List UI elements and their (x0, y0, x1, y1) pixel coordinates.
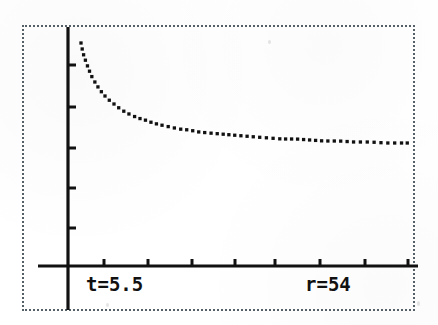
curve-dot (81, 47, 84, 50)
curve-dot (88, 70, 91, 73)
curve-dot (93, 80, 96, 83)
scan-speck (417, 301, 420, 306)
calculator-plot-screenshot: t=5.5 r=54 (0, 0, 438, 325)
curve-dot (100, 90, 103, 93)
curve-dot (372, 141, 375, 144)
curve-dot (112, 102, 115, 105)
curve-dot (245, 135, 248, 138)
curve-dot (320, 139, 323, 142)
curve-dot (117, 106, 120, 109)
curve-dot (379, 141, 382, 144)
curve-dot (345, 140, 348, 143)
curve-dot (359, 140, 362, 143)
curve-dot (144, 119, 147, 122)
curve-dot (386, 141, 389, 144)
curve-dot (406, 141, 409, 144)
curve-dot (209, 132, 212, 135)
curve-dot (127, 112, 130, 115)
curve-dot (138, 117, 141, 120)
curve-dot (216, 132, 219, 135)
curve-dot (82, 53, 85, 56)
curve-dot (400, 141, 403, 144)
curve-dot (284, 137, 287, 140)
curve-dot (326, 139, 329, 142)
trace-r-value-label: r=54 (305, 275, 351, 294)
curve-dot (84, 59, 87, 62)
curve-dot (103, 94, 106, 97)
curve-dot (197, 130, 200, 133)
curve-dot (86, 64, 89, 67)
curve-dot (393, 141, 396, 144)
curve-dot (167, 125, 170, 128)
decay-curve-dotted-series (79, 41, 409, 144)
curve-dot (160, 124, 163, 127)
curve-dot (258, 136, 261, 139)
scan-speck (268, 40, 271, 44)
curve-dot (333, 139, 336, 142)
curve-dot (185, 128, 188, 131)
curve-dot (302, 138, 305, 141)
curve-dot (96, 85, 99, 88)
curve-dot (203, 131, 206, 134)
curve-dot (296, 137, 299, 140)
curve-dot (308, 138, 311, 141)
curve-dot (339, 139, 342, 142)
curve-dot (271, 137, 274, 140)
curve-dot (290, 137, 293, 140)
curve-dot (155, 122, 158, 125)
curve-dot (227, 133, 230, 136)
curve-dot (252, 135, 255, 138)
curve-dot (233, 134, 236, 137)
curve-dot (79, 41, 82, 44)
curve-dot (173, 126, 176, 129)
curve-dot (278, 137, 281, 140)
curve-dot (352, 140, 355, 143)
plot-canvas (0, 0, 438, 325)
curve-dot (90, 75, 93, 78)
curve-dot (222, 133, 225, 136)
curve-dot (108, 99, 111, 102)
curve-dot (265, 136, 268, 139)
curve-dot (133, 115, 136, 118)
curve-dot (179, 128, 182, 131)
curve-dot (314, 139, 317, 142)
curve-dot (191, 129, 194, 132)
curve-dot (149, 121, 152, 124)
curve-dot (122, 110, 125, 113)
scan-speck (106, 303, 109, 307)
curve-dot (239, 134, 242, 137)
trace-t-value-label: t=5.5 (86, 275, 143, 294)
curve-dot (366, 140, 369, 143)
